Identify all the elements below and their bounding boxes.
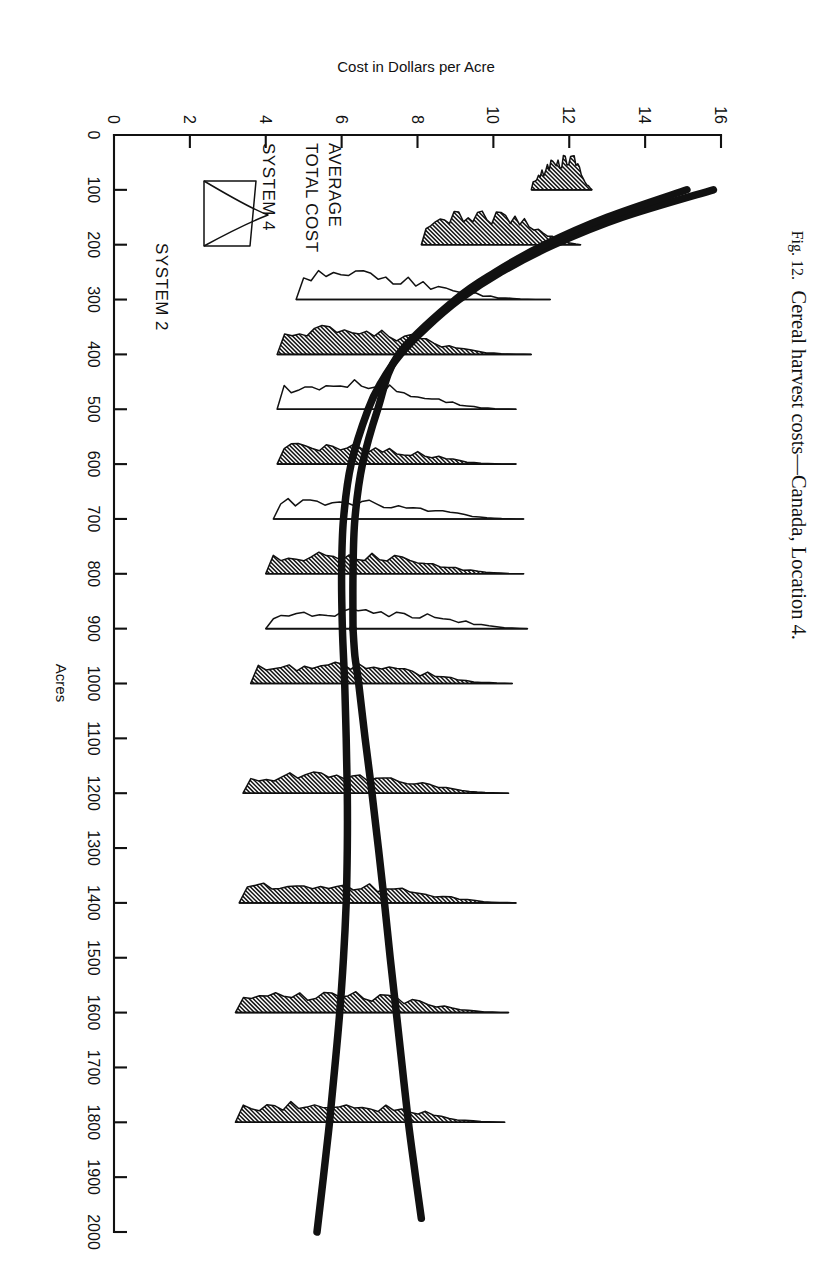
cost-chart: 0100200300400500600700800900100011001200…	[0, 0, 816, 1280]
distribution	[200, 314, 578, 360]
x-tick-label: 1100	[85, 721, 102, 756]
distribution-outline	[277, 380, 516, 410]
annotation-system-4: SYSTEM 4	[259, 143, 278, 231]
x-axis-title: Acres	[53, 664, 70, 702]
x-tick-label: 1600	[85, 995, 102, 1031]
x-tick-label: 400	[85, 341, 102, 368]
distribution-hatch	[200, 314, 578, 360]
x-tick-label: 1500	[85, 940, 102, 976]
x-tick-label: 2000	[85, 1214, 102, 1250]
y-tick-label: 0	[105, 115, 122, 124]
distribution	[188, 534, 570, 580]
y-tick-label: 2	[181, 115, 198, 124]
distribution	[453, 150, 638, 196]
x-tick-label: 1000	[85, 666, 102, 702]
x-tick-label: 600	[85, 451, 102, 478]
y-tick-label: 10	[484, 106, 501, 124]
y-tick-label: 4	[257, 115, 274, 124]
x-tick-label: 1400	[85, 885, 102, 921]
distribution	[172, 644, 558, 690]
x-tick-label: 700	[85, 506, 102, 533]
frequency-distributions	[156, 150, 638, 1128]
y-tick-label: 12	[560, 106, 577, 124]
figure-caption: Fig. 12. Cereal harvest costs—Canada, Lo…	[787, 231, 810, 640]
caption-prefix: Fig. 12.	[789, 231, 806, 280]
distribution-outline	[296, 271, 550, 300]
x-tick-label: 1800	[85, 1105, 102, 1141]
x-tick-label: 500	[85, 396, 102, 423]
distribution	[164, 753, 554, 799]
caption-text: Cereal harvest costs—Canada, Location 4.	[788, 290, 810, 640]
distribution-outline	[273, 499, 523, 519]
annotation-system-2: SYSTEM 2	[152, 243, 171, 331]
y-tick-label: 6	[333, 115, 350, 124]
x-tick-label: 1700	[85, 1050, 102, 1086]
y-tick-label: 16	[712, 106, 729, 124]
cost-curve-system-4	[353, 629, 421, 1219]
cost-curve-system-2	[317, 190, 713, 1232]
distribution	[273, 499, 523, 519]
distribution	[296, 271, 550, 300]
x-tick-label: 1200	[85, 775, 102, 811]
distribution-hatch	[188, 534, 570, 580]
figure-page: 0100200300400500600700800900100011001200…	[0, 0, 816, 1280]
x-tick-label: 1900	[85, 1159, 102, 1195]
distribution	[266, 609, 528, 629]
annotation-average-total-cost-line1: AVERAGE	[325, 143, 344, 227]
distribution	[156, 973, 555, 1019]
distribution	[201, 424, 562, 470]
x-axis-ticks: 0100200300400500600700800900100011001200…	[85, 131, 127, 1250]
x-tick-label: 200	[85, 231, 102, 258]
x-tick-label: 1300	[85, 830, 102, 866]
distribution-outline	[266, 609, 528, 629]
x-tick-label: 900	[85, 615, 102, 642]
distribution-outline	[531, 155, 592, 189]
x-tick-label: 0	[85, 131, 102, 140]
y-tick-label: 14	[636, 106, 653, 124]
y-axis-title: Cost in Dollars per Acre	[337, 58, 495, 75]
cost-curves	[317, 190, 713, 1232]
y-tick-label: 8	[409, 115, 426, 124]
distribution-hatch	[201, 424, 562, 470]
distribution	[156, 1082, 551, 1128]
rotated-figure: 0100200300400500600700800900100011001200…	[0, 0, 816, 1280]
plot-wrapper: 0100200300400500600700800900100011001200…	[0, 0, 816, 1280]
x-tick-label: 300	[85, 286, 102, 313]
distribution	[163, 863, 562, 909]
distribution	[277, 380, 516, 410]
y-axis-ticks: 0246810121416	[105, 106, 729, 148]
annotation-average-total-cost-line2: TOTAL COST	[302, 143, 321, 253]
x-tick-label: 800	[85, 560, 102, 587]
x-tick-label: 100	[85, 176, 102, 203]
